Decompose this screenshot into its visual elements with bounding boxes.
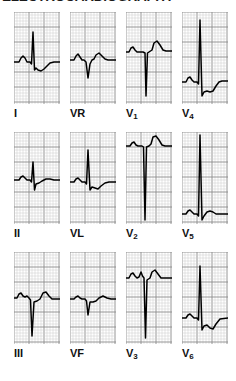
lead-label-text: VR [70,107,85,119]
ecg-lead-ii: II [14,132,62,252]
ecg-lead-label-iii: III [14,347,23,359]
ecg-lead-label-vr: VR [70,107,85,119]
ecg-row: IVRV1V4 [0,12,236,132]
ecg-trace-panel-vf [70,252,116,344]
lead-label-text: VF [70,347,84,359]
ecg-trace-panel-i [14,12,60,104]
ecg-lead-iii: III [14,252,62,372]
ecg-lead-label-v5: V5 [182,227,194,241]
lead-label-subscript: 5 [189,232,193,241]
ecg-trace-panel-vl [70,132,116,224]
ecg-lead-label-vf: VF [70,347,84,359]
ecg-lead-v6: V6 [182,252,230,372]
ecg-lead-v1: V1 [126,12,174,132]
ecg-lead-label-v1: V1 [126,107,138,121]
ecg-lead-label-vl: VL [70,227,84,239]
ecg-trace-panel-v4 [182,12,228,104]
ecg-trace-panel-v2 [126,132,172,224]
ecg-row: IIIVFV3V6 [0,252,236,372]
ecg-trace-panel-iii [14,252,60,344]
lead-label-text: III [14,347,23,359]
ecg-trace-panel-ii [14,132,60,224]
ecg-lead-i: I [14,12,62,132]
ecg-lead-label-v2: V2 [126,227,138,241]
ecg-trace-panel-v6 [182,252,228,344]
page-title: ELECTROCARDIOGRAPHY [2,0,174,4]
ecg-lead-vf: VF [70,252,118,372]
ecg-lead-label-i: I [14,107,17,119]
ecg-lead-label-ii: II [14,227,20,239]
ecg-lead-label-v6: V6 [182,347,194,361]
ecg-lead-grid: IVRV1V4IIVLV2V5IIIVFV3V6 [0,12,236,372]
ecg-trace-panel-v1 [126,12,172,104]
ecg-trace-panel-vr [70,12,116,104]
lead-label-subscript: 1 [133,112,137,121]
lead-label-text: I [14,107,17,119]
ecg-lead-vl: VL [70,132,118,252]
ecg-row: IIVLV2V5 [0,132,236,252]
ecg-lead-v2: V2 [126,132,174,252]
lead-label-subscript: 2 [133,232,137,241]
ecg-lead-v3: V3 [126,252,174,372]
lead-label-text: VL [70,227,84,239]
ecg-lead-v4: V4 [182,12,230,132]
ecg-lead-vr: VR [70,12,118,132]
ecg-trace-panel-v3 [126,252,172,344]
ecg-figure: ELECTROCARDIOGRAPHY IVRV1V4IIVLV2V5IIIVF… [0,0,236,381]
lead-label-text: II [14,227,20,239]
ecg-lead-label-v4: V4 [182,107,194,121]
ecg-trace-panel-v5 [182,132,228,224]
figure-title-strip: ELECTROCARDIOGRAPHY [0,0,236,9]
ecg-lead-v5: V5 [182,132,230,252]
lead-label-subscript: 3 [133,352,137,361]
ecg-lead-label-v3: V3 [126,347,138,361]
lead-label-subscript: 4 [189,112,193,121]
lead-label-subscript: 6 [189,352,193,361]
